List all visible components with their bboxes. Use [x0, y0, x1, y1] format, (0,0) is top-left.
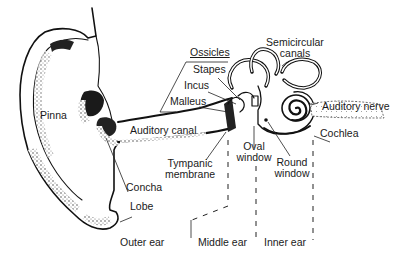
- label-concha: Concha: [126, 182, 162, 193]
- label-round-window: Round window: [270, 157, 314, 179]
- ear-diagram: Pinna Auditory canal Concha Lobe Ossicle…: [0, 0, 404, 263]
- region-middle-ear: Middle ear: [198, 237, 247, 248]
- region-outer-ear: Outer ear: [120, 237, 164, 248]
- label-ossicles: Ossicles: [190, 47, 230, 58]
- label-auditory-nerve: Auditory nerve: [322, 101, 390, 112]
- label-malleus: Malleus: [170, 96, 206, 107]
- label-lobe: Lobe: [130, 201, 153, 212]
- label-tympanic-membrane: Tympanic membrane: [162, 158, 218, 180]
- label-cochlea: Cochlea: [320, 128, 359, 139]
- label-stapes: Stapes: [193, 64, 226, 75]
- pinna-shape: [20, 8, 120, 229]
- label-semicircular-canals: Semicircular canals: [260, 37, 330, 59]
- label-auditory-canal: Auditory canal: [130, 125, 197, 136]
- region-inner-ear: Inner ear: [264, 237, 306, 248]
- label-pinna: Pinna: [40, 110, 67, 121]
- label-incus: Incus: [184, 80, 209, 91]
